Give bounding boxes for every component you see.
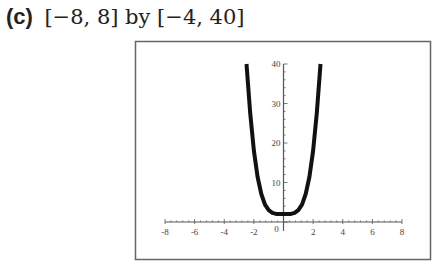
x-tick-label: 6	[370, 227, 375, 237]
y-tick-label: 20	[272, 138, 282, 148]
x-tick-label: -6	[191, 227, 199, 237]
x-tick-label: 0	[274, 224, 279, 234]
x-tick-label: -8	[161, 227, 169, 237]
plot-figure: -8-6-4-20246810203040	[0, 0, 448, 273]
x-tick-label: 4	[341, 227, 346, 237]
y-tick-label: 10	[272, 178, 282, 188]
axes: -8-6-4-20246810203040	[161, 59, 405, 237]
x-tick-label: 2	[311, 227, 316, 237]
y-tick-label: 40	[272, 59, 282, 69]
x-tick-label: -4	[221, 227, 229, 237]
x-tick-label: 8	[400, 227, 405, 237]
x-tick-label: -2	[250, 227, 258, 237]
y-tick-label: 30	[272, 99, 282, 109]
